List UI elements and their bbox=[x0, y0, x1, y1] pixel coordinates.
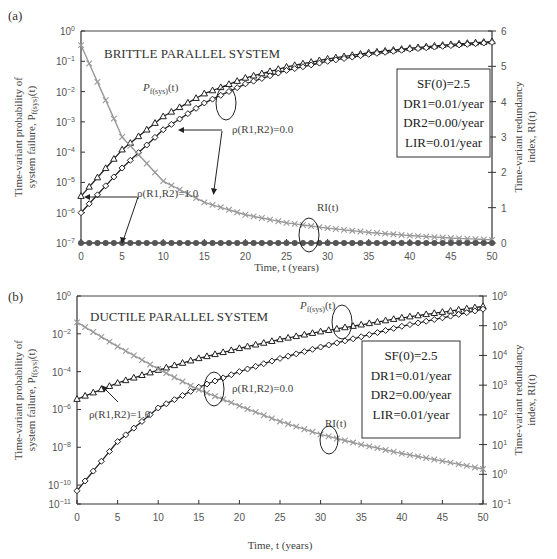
ri-annotation: RI(t) bbox=[325, 417, 347, 430]
parameter-text: SF(0)=2.5 bbox=[417, 76, 470, 91]
diamond-marker bbox=[228, 372, 234, 378]
dot-marker bbox=[226, 240, 232, 246]
x-marker bbox=[188, 383, 194, 389]
x-tick-label: 5 bbox=[119, 251, 125, 262]
diamond-marker bbox=[464, 41, 470, 47]
pf-annotation: Pf(sys)(t) bbox=[142, 81, 179, 96]
dot-marker bbox=[357, 240, 363, 246]
diamond-marker bbox=[358, 334, 364, 340]
diamond-marker bbox=[399, 47, 405, 53]
x-marker bbox=[82, 324, 88, 330]
dot-marker bbox=[127, 240, 133, 246]
chart-panel-a: 0510152025303540455010010−110−210−310−41… bbox=[8, 8, 538, 274]
x-marker bbox=[99, 334, 105, 340]
x-tick-label: 40 bbox=[404, 251, 416, 262]
y2-tick-label: 4 bbox=[501, 97, 507, 108]
rho1-arrow-2 bbox=[123, 197, 138, 241]
y2-tick-label: 105 bbox=[492, 320, 507, 332]
dot-marker bbox=[292, 240, 298, 246]
x-marker bbox=[160, 178, 166, 184]
x-tick-label: 50 bbox=[477, 512, 489, 523]
diamond-marker bbox=[259, 75, 265, 81]
diamond-marker bbox=[301, 349, 307, 355]
x-marker bbox=[228, 400, 234, 406]
arrowhead bbox=[84, 194, 90, 200]
dot-marker bbox=[267, 240, 273, 246]
diamond-marker bbox=[481, 40, 487, 46]
diamond-marker bbox=[431, 317, 437, 323]
panel-title: BRITTLE PARALLEL SYSTEM bbox=[104, 46, 280, 61]
ri-annotation: RI(t) bbox=[317, 201, 339, 214]
dot-marker bbox=[431, 240, 437, 246]
diamond-marker bbox=[226, 88, 232, 94]
diamond-marker bbox=[456, 42, 462, 48]
y2-tick-label: 103 bbox=[492, 379, 507, 391]
x-tick-label: 20 bbox=[240, 251, 252, 262]
x-tick-label: 0 bbox=[74, 512, 80, 523]
x-marker bbox=[86, 61, 92, 67]
x-tick-label: 35 bbox=[356, 512, 368, 523]
diamond-marker bbox=[374, 330, 380, 336]
dot-marker bbox=[185, 240, 191, 246]
diamond-marker bbox=[415, 46, 421, 52]
diamond-marker bbox=[423, 45, 429, 51]
x-marker bbox=[147, 362, 153, 368]
dot-marker bbox=[415, 240, 421, 246]
x-marker bbox=[115, 344, 121, 350]
diamond-marker bbox=[171, 397, 177, 403]
dot-marker bbox=[464, 240, 470, 246]
diamond-marker bbox=[245, 366, 251, 372]
chart-panel-b: 0510152025303540455010010−210−410−610−81… bbox=[8, 289, 538, 552]
y-tick-label: 10−8 bbox=[52, 441, 71, 453]
diamond-marker bbox=[334, 340, 340, 346]
series-filled-circle bbox=[78, 240, 495, 246]
diamond-marker bbox=[391, 325, 397, 331]
x-tick-label: 45 bbox=[437, 512, 449, 523]
ri-ellipse bbox=[299, 218, 319, 252]
diamond-marker bbox=[277, 355, 283, 361]
parameter-text: DR1=0.01/year bbox=[403, 96, 484, 111]
diamond-marker bbox=[440, 43, 446, 49]
parameter-text: LIR=0.01/year bbox=[372, 407, 450, 422]
dot-marker bbox=[177, 240, 183, 246]
y2-tick-label: 104 bbox=[492, 349, 507, 361]
left-y-axis-title: Time-variant probability ofsystem failur… bbox=[12, 340, 39, 460]
x-marker bbox=[90, 329, 96, 335]
x-tick-label: 5 bbox=[115, 512, 121, 523]
x-marker bbox=[119, 134, 125, 140]
x-tick-label: 30 bbox=[315, 512, 327, 523]
triangle-marker bbox=[144, 126, 150, 132]
x-tick-label: 30 bbox=[322, 251, 334, 262]
y2-tick-label: 5 bbox=[501, 61, 507, 72]
diamond-marker bbox=[163, 401, 169, 407]
x-tick-label: 10 bbox=[153, 512, 165, 523]
y-tick-label: 10−6 bbox=[56, 207, 75, 219]
arrowhead bbox=[178, 127, 184, 133]
diamond-marker bbox=[431, 44, 437, 50]
dot-marker bbox=[275, 240, 281, 246]
x-tick-label: 35 bbox=[363, 251, 375, 262]
dot-marker bbox=[382, 240, 388, 246]
triangle-marker bbox=[135, 133, 141, 139]
dot-marker bbox=[251, 240, 257, 246]
y2-tick-label: 6 bbox=[501, 26, 507, 37]
y-tick-label: 10−2 bbox=[56, 86, 75, 98]
diamond-marker bbox=[326, 342, 332, 348]
right-y-axis-title: Time-variant redundancyindex, RI(t) bbox=[512, 344, 538, 456]
panel-title: DUCTILE PARALLEL SYSTEM bbox=[90, 309, 269, 324]
dot-marker bbox=[390, 240, 396, 246]
dot-marker bbox=[333, 240, 339, 246]
dot-marker bbox=[349, 240, 355, 246]
dot-marker bbox=[259, 240, 265, 246]
parameter-text: SF(0)=2.5 bbox=[384, 348, 437, 363]
diamond-marker bbox=[383, 327, 389, 333]
diamond-marker bbox=[210, 96, 216, 102]
diamond-marker bbox=[439, 315, 445, 321]
dot-marker bbox=[366, 240, 372, 246]
y-tick-label: 10−10 bbox=[48, 479, 71, 491]
diamond-marker bbox=[407, 322, 413, 328]
dot-marker bbox=[284, 240, 290, 246]
diamond-marker bbox=[293, 351, 299, 357]
diamond-marker bbox=[253, 363, 259, 369]
diamond-marker bbox=[285, 353, 291, 359]
